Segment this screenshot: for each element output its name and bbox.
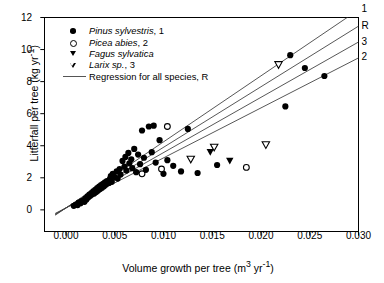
data-point-series-0 bbox=[141, 155, 147, 161]
data-point-series-0 bbox=[302, 65, 308, 71]
data-point-series-0 bbox=[137, 161, 143, 167]
data-point-series-0 bbox=[185, 126, 191, 132]
regression-line-label-2: 2 bbox=[362, 52, 368, 62]
data-point-series-1 bbox=[164, 124, 170, 130]
data-point-series-0 bbox=[149, 149, 155, 155]
data-point-series-0 bbox=[214, 162, 220, 168]
data-point-series-0 bbox=[153, 159, 159, 165]
data-point-series-3 bbox=[187, 156, 194, 163]
data-point-series-1 bbox=[139, 171, 145, 177]
data-point-series-0 bbox=[125, 150, 131, 156]
legend-marker-line-icon bbox=[63, 71, 89, 82]
data-point-series-0 bbox=[123, 167, 129, 173]
data-point-series-3 bbox=[275, 62, 282, 69]
data-point-series-0 bbox=[117, 171, 123, 177]
data-point-series-1 bbox=[159, 166, 165, 172]
legend-label-3: Larix sp., 3 bbox=[89, 59, 135, 70]
data-point-series-0 bbox=[133, 169, 139, 175]
data-point-series-2 bbox=[207, 149, 214, 156]
legend-marker-open-circle-icon bbox=[63, 36, 89, 47]
data-point-series-0 bbox=[164, 157, 170, 163]
data-point-series-0 bbox=[139, 127, 145, 133]
legend-marker-filled-triangle-down-icon bbox=[63, 48, 89, 59]
legend-label-2: Fagus sylvatica bbox=[89, 48, 154, 59]
data-point-series-0 bbox=[131, 146, 137, 152]
legend-item-0[interactable]: Pinus sylvestris, 1 bbox=[63, 25, 208, 36]
data-point-series-0 bbox=[282, 103, 288, 109]
legend-marker-filled-circle-icon bbox=[63, 25, 89, 36]
legend-item-3[interactable]: Larix sp., 3 bbox=[63, 59, 208, 70]
legend-marker-open-triangle-down-icon bbox=[63, 59, 89, 70]
legend: Pinus sylvestris, 1Picea abies, 2Fagus s… bbox=[63, 25, 208, 82]
data-point-series-1 bbox=[243, 164, 249, 170]
legend-item-2[interactable]: Fagus sylvatica bbox=[63, 48, 208, 59]
data-point-series-0 bbox=[135, 151, 141, 157]
scatter-plot-figure: Litterfall per tree (kg yr-1) Volume gro… bbox=[0, 0, 384, 283]
legend-label-regression: Regression for all species, R bbox=[89, 71, 208, 82]
data-point-series-0 bbox=[321, 73, 327, 79]
legend-item-1[interactable]: Picea abies, 2 bbox=[63, 36, 208, 47]
data-point-series-0 bbox=[170, 163, 176, 169]
legend-item-regression[interactable]: Regression for all species, R bbox=[63, 71, 208, 82]
legend-label-1: Picea abies, 2 bbox=[89, 37, 148, 48]
data-point-series-0 bbox=[178, 168, 184, 174]
regression-line-label-1: 1 bbox=[362, 4, 368, 14]
regression-line-label-R: R bbox=[362, 21, 369, 31]
data-point-series-0 bbox=[151, 123, 157, 129]
data-point-series-0 bbox=[128, 156, 134, 162]
data-point-series-2 bbox=[226, 158, 233, 165]
regression-line-label-3: 3 bbox=[362, 37, 368, 47]
legend-label-0: Pinus sylvestris, 1 bbox=[89, 25, 164, 36]
data-point-series-0 bbox=[194, 170, 200, 176]
data-point-series-3 bbox=[262, 142, 269, 149]
data-point-series-0 bbox=[287, 52, 293, 58]
data-point-series-0 bbox=[156, 137, 162, 143]
